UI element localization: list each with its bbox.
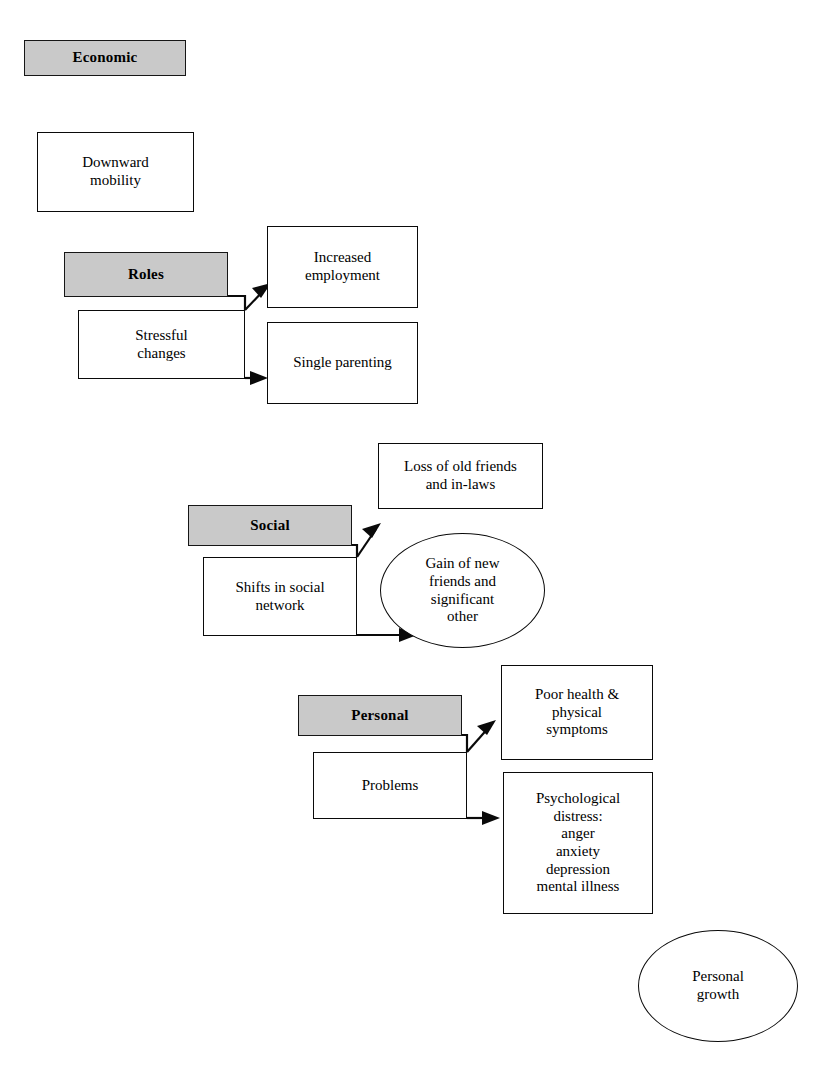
cause-problems-label: Problems xyxy=(314,777,466,795)
outcome-psychological-distress[interactable]: Psychological distress: anger anxiety de… xyxy=(503,772,653,914)
connector-problems-to-psychological-distress xyxy=(467,811,500,825)
outcome-downward-mobility-label: Downward mobility xyxy=(38,154,193,189)
cause-shifts-in-social-network-label: Shifts in social network xyxy=(204,579,356,614)
connector-problems-to-poor-health xyxy=(462,720,496,752)
outcome-loss-of-old-friends[interactable]: Loss of old friends and in-laws xyxy=(378,443,543,509)
connector-shifts-to-loss-of-friends xyxy=(352,523,381,557)
group-header-economic[interactable]: Economic xyxy=(24,40,186,76)
outcome-downward-mobility[interactable]: Downward mobility xyxy=(37,132,194,212)
group-header-economic-label: Economic xyxy=(25,49,185,67)
outcome-poor-health[interactable]: Poor health & physical symptoms xyxy=(501,665,653,760)
group-header-personal-label: Personal xyxy=(299,707,461,725)
cause-stressful-changes-label: Stressful changes xyxy=(79,327,244,362)
group-header-roles-label: Roles xyxy=(65,266,227,284)
outcome-single-parenting[interactable]: Single parenting xyxy=(267,322,418,404)
outcome-personal-growth[interactable]: Personal growth xyxy=(638,930,798,1042)
cause-problems[interactable]: Problems xyxy=(313,752,467,819)
connector-stressful-to-increased-employment xyxy=(228,283,271,310)
group-header-social[interactable]: Social xyxy=(188,505,352,546)
outcome-increased-employment-label: Increased employment xyxy=(268,249,417,284)
diagram-canvas: Economic Downward mobility Roles Stressf… xyxy=(0,0,828,1078)
outcome-loss-of-old-friends-label: Loss of old friends and in-laws xyxy=(379,458,542,493)
outcome-psychological-distress-label: Psychological distress: anger anxiety de… xyxy=(504,790,652,896)
outcome-personal-growth-label: Personal growth xyxy=(639,968,797,1003)
group-header-roles[interactable]: Roles xyxy=(64,252,228,297)
group-header-social-label: Social xyxy=(189,517,351,535)
outcome-poor-health-label: Poor health & physical symptoms xyxy=(502,686,652,739)
outcome-increased-employment[interactable]: Increased employment xyxy=(267,226,418,308)
cause-shifts-in-social-network[interactable]: Shifts in social network xyxy=(203,557,357,636)
group-header-personal[interactable]: Personal xyxy=(298,695,462,736)
outcome-gain-of-new-friends[interactable]: Gain of new friends and significant othe… xyxy=(380,533,545,648)
connector-stressful-to-single-parenting xyxy=(245,371,268,385)
cause-stressful-changes[interactable]: Stressful changes xyxy=(78,310,245,379)
outcome-gain-of-new-friends-label: Gain of new friends and significant othe… xyxy=(381,555,544,626)
outcome-single-parenting-label: Single parenting xyxy=(268,354,417,372)
